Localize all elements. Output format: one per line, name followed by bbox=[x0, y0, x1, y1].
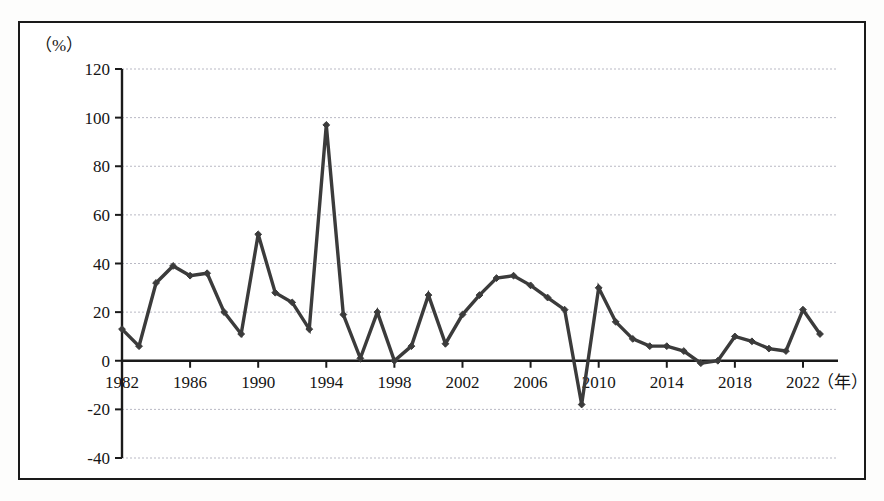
y-tick-label--40: -40 bbox=[87, 449, 110, 468]
data-point-marker bbox=[578, 401, 585, 408]
x-tick-label-2018: 2018 bbox=[718, 373, 752, 392]
y-tick-label-40: 40 bbox=[93, 255, 110, 274]
y-tick-label-80: 80 bbox=[93, 157, 110, 176]
x-tick-label-1994: 1994 bbox=[309, 373, 344, 392]
y-tick-label--20: -20 bbox=[87, 400, 110, 419]
x-tick-label-2002: 2002 bbox=[445, 373, 479, 392]
x-axis-unit-label: （年） bbox=[817, 373, 868, 392]
chart-frame: （%） 120100806040200-20-40198219861990199… bbox=[18, 21, 866, 480]
data-point-marker bbox=[323, 122, 330, 129]
screenshot-page: （%） 120100806040200-20-40198219861990199… bbox=[0, 0, 884, 501]
x-tick-label-2014: 2014 bbox=[650, 373, 685, 392]
y-tick-label-20: 20 bbox=[93, 303, 110, 322]
y-tick-label-120: 120 bbox=[85, 60, 111, 79]
x-tick-label-1998: 1998 bbox=[377, 373, 411, 392]
y-tick-label-100: 100 bbox=[85, 109, 111, 128]
x-tick-label-1982: 1982 bbox=[105, 373, 139, 392]
x-tick-label-1986: 1986 bbox=[173, 373, 207, 392]
x-tick-label-2006: 2006 bbox=[514, 373, 548, 392]
line-chart: 120100806040200-20-401982198619901994199… bbox=[20, 23, 868, 482]
x-tick-label-1990: 1990 bbox=[241, 373, 275, 392]
plot-area: 120100806040200-20-401982198619901994199… bbox=[20, 23, 868, 482]
y-tick-label-0: 0 bbox=[102, 352, 111, 371]
y-tick-label-60: 60 bbox=[93, 206, 110, 225]
data-series-line bbox=[122, 125, 820, 405]
x-tick-label-2022: 2022 bbox=[786, 373, 820, 392]
